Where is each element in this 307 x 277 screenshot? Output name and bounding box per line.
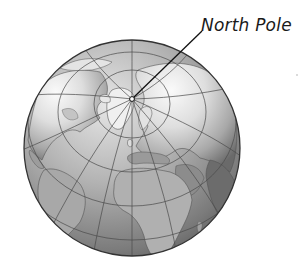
globe-illustration <box>0 0 307 277</box>
speck <box>296 74 298 76</box>
north-pole-label: North Pole <box>201 15 292 35</box>
globe-diagram: North Pole <box>0 0 307 277</box>
arctic-islands <box>100 94 111 102</box>
north-pole-marker <box>130 97 135 102</box>
